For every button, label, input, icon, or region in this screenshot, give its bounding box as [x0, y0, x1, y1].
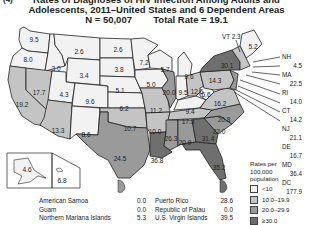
legend-item-lt10: <10: [250, 185, 290, 193]
legend-title-3: population: [250, 175, 290, 183]
label-ok: 10.7: [124, 125, 137, 132]
label-sc: 22.0: [213, 128, 226, 135]
label-or: 8.0: [23, 56, 32, 63]
label-ak: 4.6: [22, 166, 31, 173]
label-id: 3.0: [51, 65, 60, 72]
label-mi: 9.6: [184, 73, 193, 80]
label-ms: 26.3: [165, 135, 178, 142]
virgin-islands-shape: [220, 180, 227, 193]
label-ks: 6.2: [119, 105, 128, 112]
label-al: 20.9: [179, 139, 192, 146]
label-ca: 19.2: [16, 101, 29, 108]
legend-swatch: [250, 185, 258, 193]
callout-ct: CT14.2: [282, 106, 313, 124]
label-va: 16.2: [214, 100, 227, 107]
label-ga: 31.4: [202, 135, 215, 142]
label-ne: 5.1: [115, 87, 124, 94]
leader-ri: [252, 72, 280, 75]
legend-item-ge30: ≥30.0: [250, 217, 290, 225]
area-row: American Samoa0.0: [39, 197, 146, 206]
callout-vt: VT 2.3: [222, 32, 240, 41]
dependent-areas-right: Puerto Rico28.6 Republic of Palau0.0 U.S…: [155, 197, 233, 223]
state-fl: [182, 142, 226, 180]
legend-swatch: [250, 217, 258, 225]
label-co: 9.6: [85, 98, 94, 105]
callout-ma: MA22.5: [282, 70, 313, 88]
legend-title-2: 100,000: [250, 168, 290, 176]
label-in: 9.5: [178, 89, 187, 96]
label-la: 36.8: [151, 157, 164, 164]
callout-ri: RI14.0: [282, 88, 313, 106]
legend-swatch: [250, 196, 258, 204]
label-sd: 3.8: [114, 66, 123, 73]
label-mn: 7.2: [139, 59, 148, 66]
area-row: Puerto Rico28.6: [155, 197, 233, 206]
area-row: Northern Mariana Islands5.3: [39, 214, 146, 223]
label-ut: 4.3: [59, 91, 68, 98]
leader-ct: [246, 75, 280, 84]
label-wi: 5.7: [160, 66, 169, 73]
label-nd: 2.6: [113, 46, 122, 53]
legend-item-10-19: 10.0–19.9: [250, 196, 290, 204]
label-wv: 6.6: [201, 91, 210, 98]
area-row: Guam0.0: [39, 206, 146, 215]
label-il: 20.0: [163, 89, 176, 96]
state-hi: [56, 168, 63, 172]
callout-nj: NJ21.1: [282, 124, 313, 142]
area-row: Republic of Palau0.0: [155, 206, 233, 215]
legend-title-1: Rates per: [250, 160, 290, 168]
callout-nh: NH4.5: [282, 52, 313, 70]
label-pa: 14.3: [209, 77, 222, 84]
label-mo: 11.2: [150, 107, 163, 114]
dependent-areas-left: American Samoa0.0 Guam0.0 Northern Maria…: [39, 197, 146, 223]
label-hi: 6.8: [57, 177, 66, 184]
label-ia: 5.0: [146, 81, 155, 88]
label-ky: 9.4: [185, 108, 194, 115]
callout-de: DE16.7: [282, 142, 313, 160]
label-nc: 20.8: [218, 116, 231, 123]
puerto-rico-shape: [118, 180, 125, 193]
label-tx: 24.5: [114, 155, 127, 162]
label-az: 13.3: [52, 127, 65, 134]
legend: Rates per 100,000 population <10 10.0–19…: [250, 160, 290, 225]
label-wa: 9.5: [29, 36, 38, 43]
label-nm: 8.6: [81, 131, 90, 138]
leader-nh: [253, 57, 280, 62]
label-ar: 10.0: [149, 128, 162, 135]
label-nv: 17.7: [33, 89, 46, 96]
label-tn: 17.3: [182, 118, 195, 125]
legend-item-20-29: 20.0–29.9: [250, 206, 290, 214]
label-ny: 30.1: [221, 62, 234, 69]
legend-swatch: [250, 206, 258, 214]
label-mt: 2.6: [74, 48, 83, 55]
label-me: 5.2: [248, 43, 257, 50]
callout-value: 2.3: [232, 33, 241, 40]
area-row: U.S. Virgin Islands39.5: [155, 214, 233, 223]
callout-abbr: VT: [222, 33, 230, 40]
label-fl: 35.2: [213, 164, 226, 171]
leader-ma: [253, 66, 280, 67]
label-wy: 3.4: [79, 72, 88, 79]
